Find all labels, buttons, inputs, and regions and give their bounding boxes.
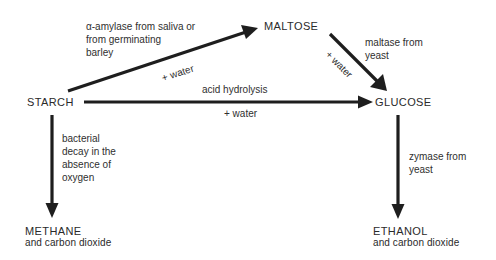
node-ethanol-label: ETHANOL [373,225,428,237]
node-ethanol: ETHANOL and carbon dioxide [373,225,459,249]
node-starch: STARCH [27,96,74,108]
label-maltase: maltase from yeast [365,36,423,62]
label-bacterial-line-2: decay in the [62,145,116,158]
node-ethanol-sub: and carbon dioxide [373,237,459,249]
label-amylase-line-3: barley [86,46,195,59]
label-zymase: zymase from yeast [409,150,466,176]
label-maltase-line-1: maltase from [365,36,423,49]
label-amylase: α-amylase from saliva or from germinatin… [86,20,195,59]
node-methane-label: METHANE [25,225,82,237]
label-bacterial-decay: bacterial decay in the absence of oxygen [62,132,116,184]
label-zymase-line-2: yeast [409,163,466,176]
label-amylase-line-2: from germinating [86,33,195,46]
label-bacterial-line-4: oxygen [62,171,116,184]
node-maltose: MALTOSE [264,20,318,32]
starch-conversion-diagram: STARCH MALTOSE GLUCOSE METHANE and carbo… [0,0,496,260]
label-maltase-line-2: yeast [365,49,423,62]
arrow-glucose-to-ethanol [392,115,405,219]
label-acid-hydrolysis: acid hydrolysis [202,83,268,96]
node-methane: METHANE and carbon dioxide [25,225,111,249]
label-bacterial-line-1: bacterial [62,132,116,145]
label-zymase-line-1: zymase from [409,150,466,163]
arrow-starch-to-methane [46,115,59,218]
label-amylase-line-1: α-amylase from saliva or [86,20,195,33]
node-glucose: GLUCOSE [375,96,432,108]
label-bacterial-line-3: absence of [62,158,116,171]
node-methane-sub: and carbon dioxide [25,237,111,249]
label-acid-water: + water [224,107,257,120]
